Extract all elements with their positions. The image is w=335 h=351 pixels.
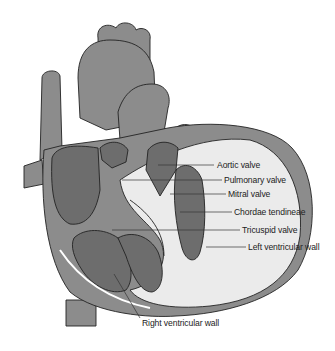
right-atrium [52,146,100,224]
label-pulmonary-valve: Pulmonary valve [224,175,286,185]
label-left-ventricular-wall: Left ventricular wall [248,242,319,252]
label-chordae-tendineae: Chordae tendineae [234,207,305,217]
pulmonary-vein-left [24,160,44,188]
label-mitral-valve: Mitral valve [228,189,270,199]
label-tricuspid-valve: Tricuspid valve [242,225,298,235]
label-aortic-valve: Aortic valve [217,160,260,170]
label-right-ventricular-wall: Right ventricular wall [142,318,219,328]
heart-diagram: Aortic valve Pulmonary valve Mitral valv… [0,0,335,351]
